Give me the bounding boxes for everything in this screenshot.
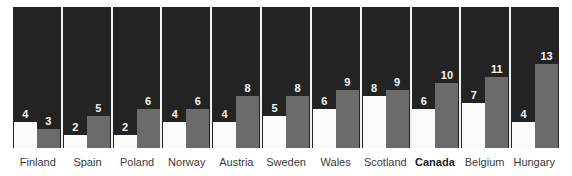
bar-value-label: 4 <box>213 109 236 120</box>
plot-area: 4325264648586989610711413 <box>13 7 559 148</box>
country-panel: 413 <box>511 7 559 148</box>
bar-group: 610 <box>416 7 456 148</box>
bar-slot: 6 <box>412 7 435 148</box>
bar-group: 58 <box>266 7 306 148</box>
bar-slot: 9 <box>386 7 409 148</box>
panel-inner: 25 <box>63 7 111 148</box>
bar-white <box>14 122 37 148</box>
bar-value-label: 2 <box>114 122 137 133</box>
bar-group: 26 <box>117 7 157 148</box>
panel-inner: 89 <box>362 7 410 148</box>
bar-value-label: 8 <box>286 83 309 94</box>
bar-slot: 4 <box>213 7 236 148</box>
bar-group: 413 <box>515 7 555 148</box>
country-panel: 711 <box>461 7 511 148</box>
category-label: Belgium <box>460 151 510 173</box>
bar-group: 69 <box>316 7 356 148</box>
bar-slot: 9 <box>336 7 359 148</box>
category-label: Hungary <box>509 151 559 173</box>
bar-value-label: 4 <box>512 109 535 120</box>
bar-white <box>163 122 186 148</box>
country-panel: 89 <box>362 7 412 148</box>
country-panel: 69 <box>312 7 362 148</box>
bar-slot: 4 <box>14 7 37 148</box>
bar-gray <box>435 83 458 148</box>
category-label: Scotland <box>360 151 410 173</box>
bar-slot: 2 <box>64 7 87 148</box>
bar-white <box>213 122 236 148</box>
country-panel: 26 <box>113 7 163 148</box>
bar-group: 48 <box>216 7 256 148</box>
bar-gray <box>485 77 508 148</box>
bar-slot: 13 <box>535 7 558 148</box>
panel-inner: 413 <box>511 7 559 148</box>
bar-value-label: 13 <box>535 51 558 62</box>
bar-gray <box>137 109 160 148</box>
bar-slot: 7 <box>462 7 485 148</box>
bar-value-label: 7 <box>462 90 485 101</box>
bar-value-label: 10 <box>435 70 458 81</box>
country-panel: 43 <box>13 7 63 148</box>
bar-value-label: 4 <box>14 109 37 120</box>
category-label: Wales <box>311 151 361 173</box>
bar-value-label: 3 <box>37 116 60 127</box>
panel-inner: 711 <box>461 7 509 148</box>
grouped-bar-chart: 4325264648586989610711413 FinlandSpainPo… <box>0 0 572 176</box>
bar-slot: 8 <box>286 7 309 148</box>
country-panel: 25 <box>63 7 113 148</box>
panel-inner: 46 <box>162 7 210 148</box>
bar-white <box>363 96 386 148</box>
bar-value-label: 5 <box>87 103 110 114</box>
panel-inner: 48 <box>212 7 260 148</box>
bar-value-label: 6 <box>313 96 336 107</box>
bar-value-label: 5 <box>263 103 286 114</box>
country-panel: 48 <box>212 7 262 148</box>
bar-group: 89 <box>366 7 406 148</box>
panel-inner: 26 <box>113 7 161 148</box>
bar-value-label: 4 <box>163 109 186 120</box>
bar-slot: 4 <box>512 7 535 148</box>
bar-slot: 11 <box>485 7 508 148</box>
bar-white <box>412 109 435 148</box>
panel-inner: 43 <box>13 7 61 148</box>
bar-slot: 5 <box>87 7 110 148</box>
bar-value-label: 9 <box>336 77 359 88</box>
bar-white <box>114 135 137 148</box>
bar-gray <box>336 90 359 148</box>
category-label: Finland <box>13 151 63 173</box>
bar-gray <box>535 64 558 148</box>
category-label: Sweden <box>261 151 311 173</box>
bar-slot: 8 <box>236 7 259 148</box>
bar-value-label: 9 <box>386 77 409 88</box>
bar-gray <box>386 90 409 148</box>
bar-value-label: 6 <box>412 96 435 107</box>
bar-gray <box>236 96 259 148</box>
bar-value-label: 8 <box>236 83 259 94</box>
bar-slot: 6 <box>137 7 160 148</box>
bar-slot: 3 <box>37 7 60 148</box>
category-axis-labels: FinlandSpainPolandNorwayAustriaSwedenWal… <box>13 151 559 173</box>
bar-group: 711 <box>465 7 505 148</box>
category-label: Spain <box>63 151 113 173</box>
bar-white <box>263 116 286 148</box>
panel-inner: 58 <box>262 7 310 148</box>
country-panel: 46 <box>162 7 212 148</box>
bar-gray <box>87 116 110 148</box>
category-label: Norway <box>162 151 212 173</box>
bar-value-label: 11 <box>485 64 508 75</box>
bar-slot: 10 <box>435 7 458 148</box>
bar-slot: 6 <box>313 7 336 148</box>
bar-white <box>313 109 336 148</box>
country-panel: 610 <box>412 7 462 148</box>
bar-gray <box>37 129 60 148</box>
bar-white <box>462 103 485 148</box>
bar-value-label: 8 <box>363 83 386 94</box>
category-label: Canada <box>410 151 460 173</box>
bar-slot: 5 <box>263 7 286 148</box>
bar-group: 25 <box>67 7 107 148</box>
bar-value-label: 2 <box>64 122 87 133</box>
bar-slot: 8 <box>363 7 386 148</box>
bar-group: 46 <box>166 7 206 148</box>
bar-slot: 4 <box>163 7 186 148</box>
category-label: Poland <box>112 151 162 173</box>
